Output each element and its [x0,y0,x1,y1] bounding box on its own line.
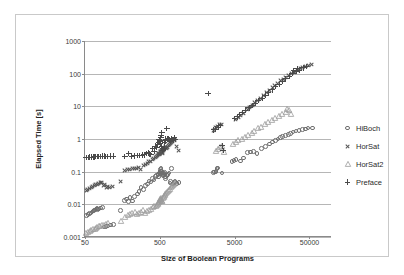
y-gridline [85,106,331,107]
y-gridline [85,139,331,140]
y-tick-mark [82,41,85,42]
y-axis-title: Elapsed Time [s] [34,109,43,168]
legend-label: HiBoch [356,124,380,133]
y-tick-label: 1 [77,136,81,143]
y-tick-mark [82,106,85,107]
y-tick-label: 1000 [65,38,81,45]
y-gridline [85,237,331,238]
x-tick-label: 500 [154,239,166,246]
y-tick-mark [82,204,85,205]
legend-label: HorSat [356,142,379,151]
x-tick-label: 50000 [300,239,319,246]
y-tick-label: 0.001 [63,234,81,241]
y-tick-label: 100 [69,70,81,77]
y-tick-mark [82,139,85,140]
y-gridline [85,204,331,205]
chart-legend: HiBochHorSatHorSat2Preface [342,119,404,191]
plot-area: 10001001010.10.010.00150500500050000 [84,41,331,237]
x-cross-marker [342,141,353,152]
y-tick-label: 0.1 [71,168,81,175]
x-axis-title: Size of Boolean Programs [84,254,331,263]
y-tick-mark [82,172,85,173]
figure-frame: Elapsed Time [s] Size of Boolean Program… [15,14,389,257]
legend-item-hiboch[interactable]: HiBoch [342,119,404,137]
y-gridline [85,41,331,42]
circle-outline-marker [342,123,353,134]
chart-area: Elapsed Time [s] Size of Boolean Program… [16,15,404,275]
x-tick-label: 5000 [227,239,243,246]
legend-item-preface[interactable]: Preface [342,173,404,191]
triangle-outline-marker [342,159,353,170]
y-tick-label: 0.01 [67,201,81,208]
legend-item-horsat[interactable]: HorSat [342,137,404,155]
y-tick-label: 10 [73,103,81,110]
legend-label: HorSat2 [356,160,384,169]
legend-item-horsat2[interactable]: HorSat2 [342,155,404,173]
plus-cross-marker [342,177,353,188]
y-tick-mark [82,74,85,75]
legend-label: Preface [356,178,382,187]
x-tick-label: 50 [81,239,89,246]
